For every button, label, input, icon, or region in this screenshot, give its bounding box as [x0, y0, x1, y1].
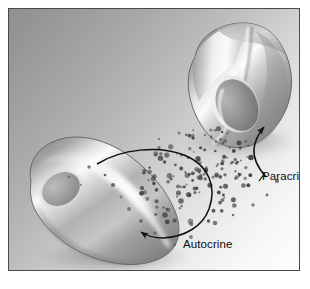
signal-molecule	[176, 184, 180, 188]
signal-molecule	[241, 183, 246, 188]
signal-molecule	[166, 180, 170, 184]
signal-molecule	[191, 136, 194, 139]
signal-molecule	[231, 197, 236, 202]
signal-molecule	[152, 174, 157, 179]
signal-molecule	[198, 176, 203, 181]
signal-molecule	[193, 151, 195, 153]
signal-molecule	[184, 171, 186, 173]
signal-molecule	[174, 163, 177, 166]
signal-molecule	[68, 176, 71, 179]
illustration-canvas	[9, 9, 299, 270]
signal-molecule	[185, 134, 187, 136]
signal-molecule	[221, 159, 225, 163]
signal-molecule	[226, 157, 228, 159]
signal-molecule	[145, 197, 149, 201]
signal-molecule	[104, 174, 107, 177]
signal-molecule	[178, 198, 183, 203]
signal-molecule	[154, 213, 157, 216]
paracrine-label: Paracrine	[262, 170, 300, 183]
signal-molecule	[155, 205, 158, 208]
signal-molecule	[165, 219, 170, 224]
signal-molecule	[164, 152, 169, 157]
signal-molecule	[142, 190, 147, 195]
signal-molecule	[147, 169, 151, 173]
signal-molecule	[246, 156, 248, 158]
signal-molecule	[179, 167, 183, 171]
signal-molecule	[111, 183, 115, 187]
signal-molecule	[240, 160, 242, 162]
signal-molecule	[232, 203, 237, 208]
signal-molecule	[221, 198, 225, 202]
signal-molecule	[198, 191, 200, 193]
signal-molecule	[183, 185, 186, 188]
signal-molecule	[209, 128, 212, 131]
signal-molecule	[214, 140, 217, 143]
signal-molecule	[174, 244, 176, 246]
signal-molecule	[216, 165, 218, 167]
signal-molecule	[231, 161, 234, 164]
signal-molecule	[178, 207, 181, 210]
signal-molecule	[176, 196, 178, 198]
signal-molecule	[177, 131, 180, 134]
signal-molecule	[158, 156, 163, 161]
illustration-panel: Paracrine Autocrine	[8, 8, 300, 271]
signal-molecule	[155, 199, 159, 203]
signal-molecule	[239, 146, 243, 150]
signal-molecule	[222, 155, 226, 159]
signal-molecule	[155, 188, 159, 192]
signal-molecule	[180, 205, 183, 208]
signal-molecule	[226, 132, 228, 134]
signal-molecule	[153, 231, 157, 235]
signal-molecule	[174, 219, 177, 222]
signal-molecule	[166, 208, 170, 212]
signal-molecule	[193, 191, 196, 194]
signal-molecule	[222, 194, 225, 197]
signal-molecule	[188, 147, 191, 150]
signal-molecule	[247, 145, 249, 147]
signal-molecule	[162, 212, 167, 217]
signal-molecule	[159, 152, 162, 155]
signal-molecule	[203, 148, 206, 151]
signal-molecule	[211, 209, 215, 213]
signal-molecule	[140, 186, 144, 190]
signal-molecule	[143, 169, 147, 173]
signal-molecule	[186, 184, 188, 186]
signal-molecule	[211, 175, 214, 178]
signal-molecule	[251, 203, 255, 207]
signal-molecule	[191, 179, 194, 182]
signal-molecule	[158, 138, 160, 140]
signal-molecule	[210, 137, 212, 139]
signal-molecule	[204, 177, 208, 181]
signal-molecule	[216, 126, 221, 131]
signal-molecule	[214, 150, 217, 153]
signal-molecule	[219, 175, 222, 178]
signal-molecule	[243, 177, 246, 180]
signal-molecule	[211, 135, 213, 137]
signal-molecule	[234, 170, 236, 172]
signal-molecule	[180, 186, 183, 189]
signal-molecule	[223, 184, 228, 189]
signal-molecule	[191, 171, 195, 175]
signal-molecule	[232, 149, 236, 153]
signal-molecule	[222, 142, 224, 144]
signal-molecule	[215, 174, 218, 177]
signal-molecule	[87, 165, 90, 168]
signal-molecule	[245, 140, 247, 142]
signal-molecule	[187, 193, 191, 197]
signal-molecule	[80, 184, 82, 186]
signal-molecule	[169, 177, 172, 180]
signal-molecule	[176, 191, 181, 196]
signal-molecule	[204, 134, 207, 137]
signal-molecule	[188, 135, 191, 138]
signal-molecule	[173, 175, 175, 177]
signal-molecule	[217, 191, 221, 195]
signal-molecule	[235, 161, 239, 165]
signal-molecule	[266, 194, 269, 197]
signal-molecule	[246, 183, 250, 187]
signal-molecule	[232, 214, 235, 217]
signal-molecule	[199, 146, 202, 149]
signal-molecule	[234, 158, 237, 161]
signal-molecule	[223, 196, 225, 198]
signal-molecule	[238, 141, 242, 145]
signal-molecule	[214, 129, 217, 132]
